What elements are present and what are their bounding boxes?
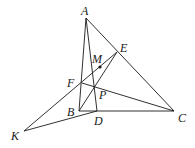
geometry-diagram: A E M F P B D C K — [0, 0, 195, 148]
label-A: A — [80, 4, 89, 18]
label-K: K — [10, 129, 20, 143]
label-F: F — [66, 76, 75, 90]
label-D: D — [93, 114, 103, 128]
segment-AB — [79, 18, 86, 111]
label-M: M — [91, 52, 103, 66]
label-B: B — [67, 105, 75, 119]
label-P: P — [98, 88, 107, 102]
label-E: E — [119, 41, 128, 55]
label-C: C — [178, 111, 187, 125]
segment-KD — [24, 111, 97, 131]
